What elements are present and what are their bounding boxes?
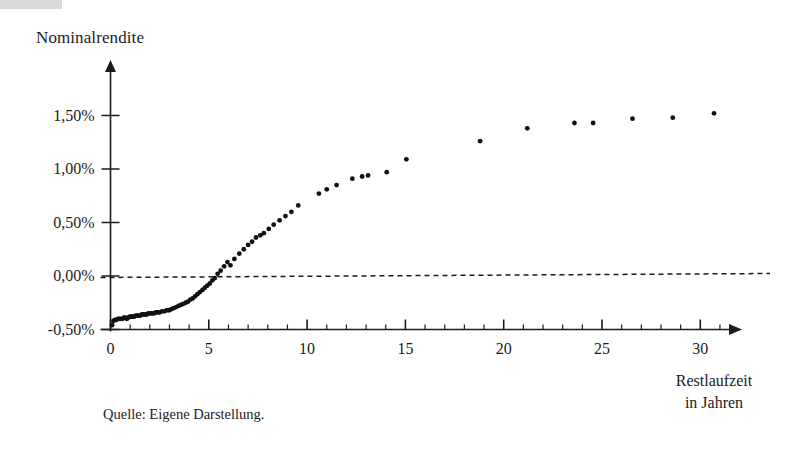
data-point — [324, 187, 329, 192]
scatter-plot-canvas — [0, 0, 789, 455]
data-point — [350, 176, 355, 181]
x-tick-label: 30 — [692, 340, 708, 358]
x-tick-label: 15 — [397, 340, 413, 358]
y-tick-label: 0,50% — [53, 214, 94, 232]
data-point — [237, 251, 242, 256]
data-point — [261, 231, 266, 236]
data-point — [218, 268, 223, 273]
y-tick-label: -0,50% — [48, 321, 95, 339]
x-tick-label: 20 — [496, 340, 512, 358]
data-point — [241, 247, 246, 252]
data-point-series — [110, 111, 717, 328]
zero-reference-line — [101, 274, 771, 278]
data-point — [591, 121, 596, 126]
data-point — [404, 157, 409, 162]
data-point — [277, 218, 282, 223]
data-point — [384, 170, 389, 175]
data-point — [366, 173, 371, 178]
data-point — [266, 227, 271, 232]
data-point — [670, 115, 675, 120]
x-axis-arrowhead — [729, 324, 742, 335]
y-axis-arrowhead — [105, 60, 116, 72]
data-point — [110, 323, 115, 328]
data-point — [296, 203, 301, 208]
data-point — [283, 214, 288, 219]
data-point — [232, 256, 237, 261]
data-point — [360, 174, 365, 179]
data-point — [271, 222, 276, 227]
y-tick-label: 1,50% — [53, 107, 94, 125]
data-point — [572, 121, 577, 126]
data-point — [222, 264, 227, 269]
x-axis-ticks — [111, 320, 720, 330]
data-point — [254, 235, 259, 240]
data-point — [525, 126, 530, 131]
data-point — [712, 111, 717, 116]
data-point — [246, 243, 251, 248]
y-tick-label: 0,00% — [53, 267, 94, 285]
x-tick-label: 25 — [594, 340, 610, 358]
data-point — [212, 276, 217, 281]
data-point — [289, 209, 294, 214]
x-tick-label: 10 — [299, 340, 315, 358]
x-tick-label: 5 — [205, 340, 213, 358]
y-tick-label: 1,00% — [53, 160, 94, 178]
data-point — [317, 191, 322, 196]
data-point — [228, 263, 233, 268]
x-tick-label: 0 — [107, 340, 115, 358]
data-point — [334, 183, 339, 188]
data-point — [478, 139, 483, 144]
chart-figure: Nominalrendite Restlaufzeit in Jahren Qu… — [0, 0, 789, 455]
data-point — [250, 239, 255, 244]
data-point — [630, 116, 635, 121]
